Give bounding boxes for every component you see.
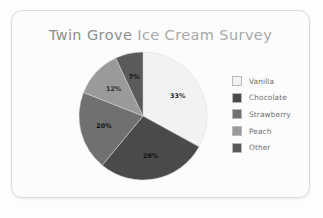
chart-legend: VanillaChocolateStrawberryPeachOther (232, 73, 308, 156)
legend-item-strawberry[interactable]: Strawberry (232, 106, 308, 123)
chart-title-rest: Ice Cream Survey (132, 27, 272, 43)
legend-swatch-icon (232, 93, 242, 103)
page-title: Twin Grove Ice Cream Survey (12, 27, 309, 43)
legend-item-chocolate[interactable]: Chocolate (232, 90, 308, 107)
legend-label: Other (249, 143, 271, 152)
pie-slice-label-other: 7% (129, 73, 140, 81)
legend-item-other[interactable]: Other (232, 139, 308, 156)
pie-slice-label-strawberry: 20% (96, 122, 112, 130)
legend-swatch-icon (232, 76, 242, 86)
chart-card: Twin Grove Ice Cream Survey 33%28%20%12%… (11, 10, 310, 198)
legend-item-vanilla[interactable]: Vanilla (232, 73, 308, 90)
legend-label: Vanilla (249, 77, 274, 86)
legend-label: Chocolate (249, 93, 287, 102)
pie-chart: 33%28%20%12%7% (78, 51, 208, 181)
screenshot-root: Twin Grove Ice Cream Survey 33%28%20%12%… (0, 0, 323, 218)
legend-swatch-icon (232, 126, 242, 136)
pie-slice-label-vanilla: 33% (170, 92, 186, 100)
pie-chart-svg: 33%28%20%12%7% (78, 51, 208, 181)
pie-slice-label-chocolate: 28% (143, 152, 159, 160)
legend-swatch-icon (232, 109, 242, 119)
plot-area: 33%28%20%12%7% VanillaChocolateStrawberr… (24, 49, 299, 193)
legend-swatch-icon (232, 143, 242, 153)
legend-label: Strawberry (249, 110, 291, 119)
pie-slice-label-peach: 12% (106, 85, 122, 93)
pie-slice-group (79, 52, 207, 180)
legend-item-peach[interactable]: Peach (232, 123, 308, 140)
legend-label: Peach (249, 127, 272, 136)
chart-title-emphasis: Twin Grove (49, 27, 132, 43)
